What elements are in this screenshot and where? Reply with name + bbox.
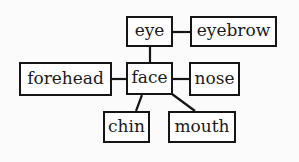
node-face: face — [126, 62, 173, 95]
node-eyebrow: eyebrow — [190, 16, 277, 47]
node-mouth-label: mouth — [174, 118, 229, 135]
node-face-label: face — [131, 69, 167, 86]
node-forehead-label: forehead — [27, 70, 104, 87]
node-eye: eye — [126, 16, 173, 47]
node-eyebrow-label: eyebrow — [197, 22, 271, 39]
node-chin: chin — [103, 111, 150, 143]
node-nose: nose — [189, 62, 240, 96]
face-parts-diagram: eye eyebrow forehead face nose chin mout… — [0, 0, 299, 162]
edge-face-chin — [136, 95, 142, 111]
node-chin-label: chin — [108, 118, 145, 135]
node-eye-label: eye — [135, 22, 165, 39]
edge-face-mouth — [172, 94, 195, 111]
node-forehead: forehead — [19, 62, 112, 96]
node-nose-label: nose — [195, 70, 235, 87]
node-mouth: mouth — [168, 111, 236, 143]
